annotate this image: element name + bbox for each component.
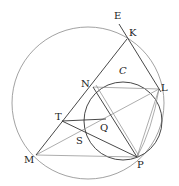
label-K: K xyxy=(129,27,137,38)
label-N: N xyxy=(81,78,90,89)
label-C: C xyxy=(119,65,127,76)
line-MP xyxy=(36,155,137,157)
label-T: T xyxy=(55,111,62,122)
label-E: E xyxy=(114,10,121,21)
geometry-diagram: E K N C L T Q S M P xyxy=(0,0,179,186)
label-S: S xyxy=(76,135,83,146)
label-M: M xyxy=(24,154,34,165)
label-L: L xyxy=(161,82,168,93)
line-NP-light xyxy=(96,85,139,156)
label-P: P xyxy=(137,159,144,170)
label-Q: Q xyxy=(100,122,108,133)
